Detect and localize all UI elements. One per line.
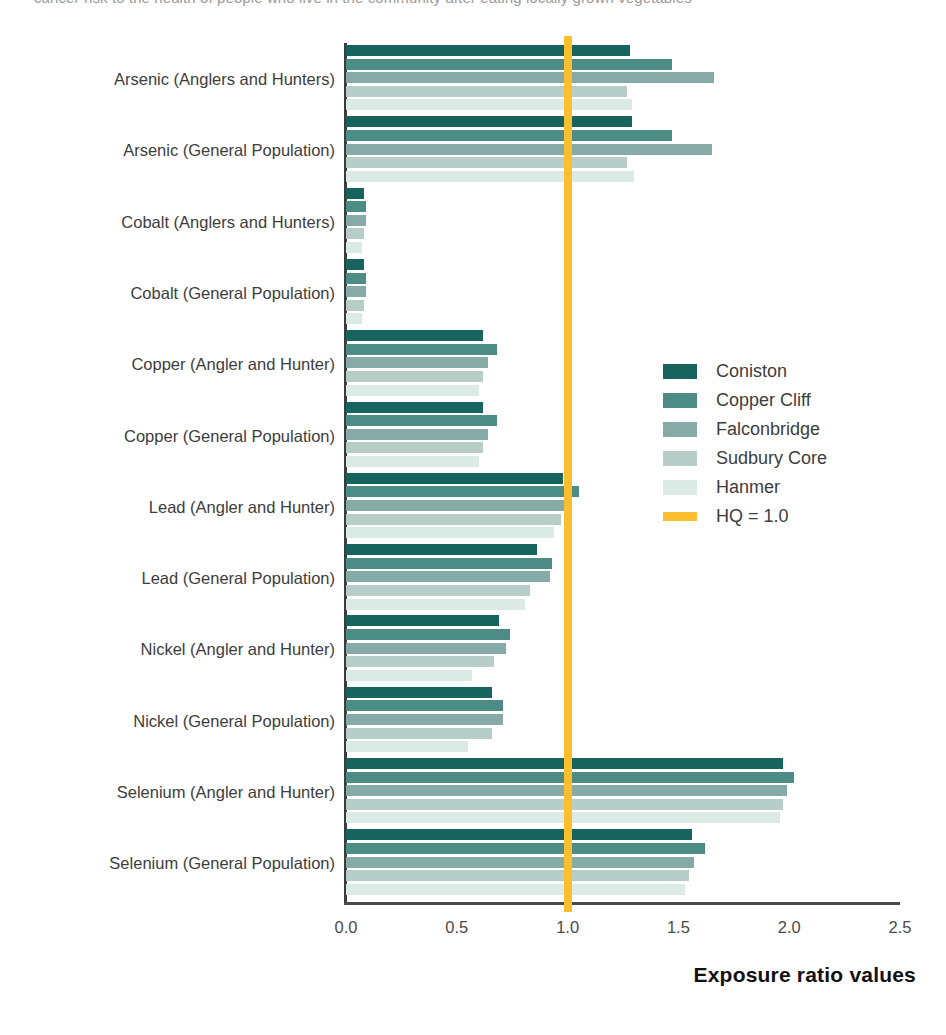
bar	[346, 415, 497, 426]
bar	[346, 330, 483, 341]
bar	[346, 843, 705, 854]
category-label: Lead (General Population)	[35, 569, 335, 588]
category-label-text: Nickel (General Population)	[133, 712, 335, 731]
bar	[346, 656, 494, 667]
legend-label: Copper Cliff	[716, 390, 811, 411]
legend-label: Hanmer	[716, 477, 780, 498]
bar	[346, 500, 570, 511]
bar	[346, 259, 364, 270]
x-axis-tick-label: 2.0	[778, 918, 801, 937]
category-label: Arsenic (General Population)	[35, 141, 335, 160]
category-label-text: Nickel (Angler and Hunter)	[141, 640, 335, 659]
x-axis-tick-label: 0.0	[335, 918, 358, 937]
bar	[346, 670, 472, 681]
legend-label: Sudbury Core	[716, 448, 827, 469]
category-label-text: Lead (General Population)	[141, 569, 335, 588]
bar	[346, 215, 366, 226]
bar	[346, 402, 483, 413]
bar	[346, 45, 630, 56]
legend: ConistonCopper CliffFalconbridgeSudbury …	[663, 357, 903, 531]
bar	[346, 286, 366, 297]
x-axis-tick-label: 1.0	[556, 918, 579, 937]
bar	[346, 300, 364, 311]
bar	[346, 72, 714, 83]
category-label-text: Selenium (General Population)	[109, 854, 335, 873]
bar	[346, 313, 362, 324]
bar	[346, 615, 499, 626]
legend-swatch	[663, 364, 697, 379]
category-label: Copper (General Population)	[35, 427, 335, 446]
bar	[346, 157, 627, 168]
bar	[346, 700, 503, 711]
bar	[346, 473, 563, 484]
bar	[346, 585, 530, 596]
legend-item[interactable]: Falconbridge	[663, 415, 903, 444]
bar	[346, 357, 488, 368]
bar	[346, 829, 692, 840]
category-label-text: Arsenic (Anglers and Hunters)	[114, 70, 335, 89]
x-axis-line	[344, 902, 900, 905]
category-label: Selenium (General Population)	[35, 854, 335, 873]
legend-swatch	[663, 512, 697, 521]
bar	[346, 544, 537, 555]
legend-item[interactable]: Sudbury Core	[663, 444, 903, 473]
category-label-text: Cobalt (Anglers and Hunters)	[121, 213, 335, 232]
bar	[346, 228, 364, 239]
bar	[346, 870, 689, 881]
bar	[346, 59, 672, 70]
bar	[346, 857, 694, 868]
bar	[346, 741, 468, 752]
x-axis-title: Exposure ratio values	[694, 963, 916, 987]
bar	[346, 429, 488, 440]
legend-swatch	[663, 422, 697, 437]
bar	[346, 687, 492, 698]
category-label: Lead (Angler and Hunter)	[35, 498, 335, 517]
bar	[346, 171, 634, 182]
bar	[346, 371, 483, 382]
category-label-text: Arsenic (General Population)	[123, 141, 335, 160]
bar	[346, 629, 510, 640]
legend-swatch	[663, 451, 697, 466]
category-label-text: Selenium (Angler and Hunter)	[117, 783, 335, 802]
bar	[346, 456, 479, 467]
bar	[346, 273, 366, 284]
legend-item[interactable]: HQ = 1.0	[663, 502, 903, 531]
legend-swatch	[663, 480, 697, 495]
bar	[346, 558, 552, 569]
x-axis-tick-label: 1.5	[667, 918, 690, 937]
bar	[346, 514, 561, 525]
category-label: Selenium (Angler and Hunter)	[35, 783, 335, 802]
bar	[346, 99, 632, 110]
bar	[346, 201, 366, 212]
category-label: Nickel (Angler and Hunter)	[35, 640, 335, 659]
bar	[346, 527, 554, 538]
x-axis-tick-label: 0.5	[445, 918, 468, 937]
legend-item[interactable]: Hanmer	[663, 473, 903, 502]
category-label-text: Copper (Angler and Hunter)	[131, 355, 335, 374]
bar	[346, 884, 685, 895]
hq-reference-line	[564, 36, 572, 912]
bar	[346, 442, 483, 453]
category-label-text: Copper (General Population)	[124, 427, 335, 446]
bar	[346, 242, 362, 253]
category-label-text: Cobalt (General Population)	[130, 284, 335, 303]
category-label: Nickel (General Population)	[35, 712, 335, 731]
bar	[346, 728, 492, 739]
category-label: Copper (Angler and Hunter)	[35, 355, 335, 374]
bar	[346, 344, 497, 355]
legend-swatch	[663, 393, 697, 408]
x-axis-tick-label: 2.5	[889, 918, 912, 937]
category-label: Arsenic (Anglers and Hunters)	[35, 70, 335, 89]
category-label: Cobalt (General Population)	[35, 284, 335, 303]
legend-item[interactable]: Coniston	[663, 357, 903, 386]
bar	[346, 571, 550, 582]
bar	[346, 599, 525, 610]
legend-label: Coniston	[716, 361, 787, 382]
bar	[346, 86, 627, 97]
legend-label: HQ = 1.0	[716, 506, 789, 527]
bar	[346, 643, 506, 654]
bar	[346, 385, 479, 396]
bar	[346, 130, 672, 141]
legend-label: Falconbridge	[716, 419, 820, 440]
legend-item[interactable]: Copper Cliff	[663, 386, 903, 415]
